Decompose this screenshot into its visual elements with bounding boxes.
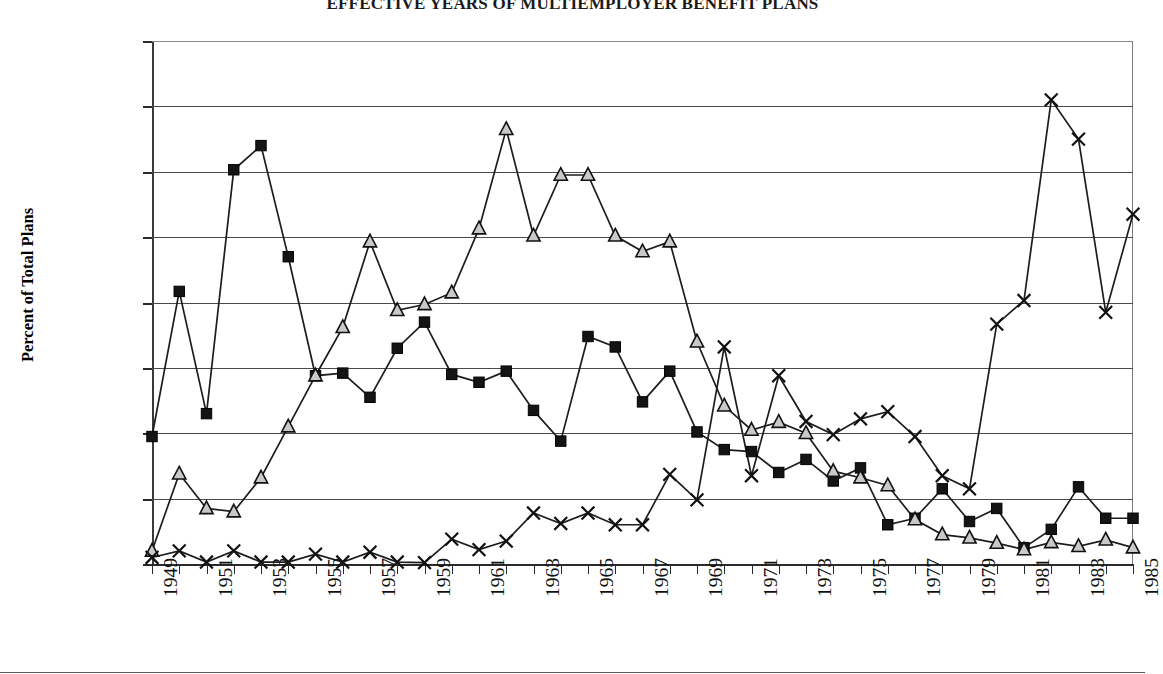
x-tick-mark	[479, 564, 480, 574]
x-tick-mark	[1079, 564, 1080, 574]
x-tick-mark	[261, 564, 262, 574]
x-tick-mark	[207, 564, 208, 574]
series-square-marker	[528, 405, 538, 415]
series-square-marker	[556, 436, 566, 446]
y-tick-mark	[143, 237, 152, 239]
x-tick-mark	[370, 564, 371, 574]
series-triangle-marker	[173, 466, 186, 479]
series-layer	[152, 41, 1133, 564]
series-square-line	[152, 146, 1133, 548]
series-square-marker	[474, 377, 484, 387]
series-square-marker	[392, 343, 402, 353]
series-cross-marker	[772, 369, 785, 382]
x-tick-mark	[643, 564, 644, 574]
series-cross-marker	[173, 545, 186, 558]
series-cross-marker	[227, 545, 240, 558]
x-tick-mark	[588, 564, 589, 574]
series-cross-marker	[554, 517, 567, 530]
series-square-marker	[828, 476, 838, 486]
series-square-marker	[883, 520, 893, 530]
series-cross-marker	[854, 412, 867, 425]
series-cross-marker	[527, 507, 540, 520]
series-cross-marker	[473, 543, 486, 556]
series-triangle-marker	[336, 320, 349, 333]
series-square-marker	[283, 252, 293, 262]
series-cross-marker	[582, 507, 595, 520]
x-tick-mark	[806, 564, 807, 574]
series-square-marker	[256, 140, 266, 150]
series-cross-marker	[827, 428, 840, 441]
x-tick-mark	[425, 564, 426, 574]
series-square-marker	[992, 503, 1002, 513]
y-tick-mark	[143, 368, 152, 370]
y-tick-mark	[143, 499, 152, 501]
series-triangle-marker	[472, 221, 485, 234]
series-square-marker	[338, 368, 348, 378]
series-triangle-marker	[500, 122, 513, 135]
x-tick-mark	[1024, 564, 1025, 574]
series-triangle-marker	[363, 234, 376, 247]
series-cross-marker	[364, 546, 377, 559]
series-triangle-marker	[527, 228, 540, 241]
y-tick-mark	[143, 172, 152, 174]
series-cross-marker	[881, 405, 894, 418]
plot-area: 0.0%1.0%2.0%3.0%4.0%5.0%6.0%7.0%8.0% 194…	[152, 41, 1133, 564]
series-square-marker	[746, 446, 756, 456]
series-square-marker	[1101, 513, 1111, 523]
series-triangle-marker	[254, 470, 267, 483]
series-square-marker	[964, 516, 974, 526]
series-cross-line	[152, 100, 1133, 563]
series-triangle-marker	[282, 419, 295, 432]
x-tick-mark	[752, 564, 753, 574]
chart-title: EFFECTIVE YEARS OF MULTIEMPLOYER BENEFIT…	[0, 0, 1145, 14]
series-cross-marker	[309, 548, 322, 561]
series-square-marker	[147, 431, 157, 441]
series-triangle-marker	[663, 234, 676, 247]
x-tick-mark	[915, 564, 916, 574]
series-square-marker	[719, 444, 729, 454]
series-triangle-marker	[690, 334, 703, 347]
series-square-marker	[1128, 513, 1138, 523]
series-square-marker	[365, 392, 375, 402]
y-axis-title: Percent of Total Plans	[18, 165, 38, 405]
series-square-marker	[637, 397, 647, 407]
series-square-marker	[447, 369, 457, 379]
x-tick-mark	[534, 564, 535, 574]
y-tick-mark	[143, 41, 152, 43]
series-square-marker	[201, 408, 211, 418]
series-triangle-marker	[1099, 532, 1112, 545]
series-square-marker	[419, 317, 429, 327]
series-square-marker	[692, 427, 702, 437]
series-cross-marker	[663, 468, 676, 481]
x-tick-mark	[316, 564, 317, 574]
series-square-marker	[610, 342, 620, 352]
series-triangle-marker	[772, 415, 785, 428]
y-tick-mark	[143, 303, 152, 305]
series-square-marker	[937, 484, 947, 494]
series-cross-marker	[500, 535, 513, 548]
series-square-marker	[583, 331, 593, 341]
series-square-marker	[1046, 524, 1056, 534]
series-square-marker	[801, 454, 811, 464]
series-square-marker	[229, 165, 239, 175]
series-triangle-marker	[936, 527, 949, 540]
series-square-marker	[1073, 482, 1083, 492]
x-tick-label: 1985	[1141, 558, 1163, 597]
x-tick-mark	[697, 564, 698, 574]
x-tick-mark	[152, 564, 153, 574]
series-cross-marker	[445, 533, 458, 546]
x-tick-mark	[1133, 564, 1134, 574]
series-square-marker	[174, 286, 184, 296]
y-tick-mark	[143, 564, 152, 566]
series-triangle-line	[152, 129, 1133, 551]
series-triangle-marker	[1045, 535, 1058, 548]
x-tick-mark	[970, 564, 971, 574]
bottom-divider	[0, 672, 1145, 673]
series-cross-marker	[909, 430, 922, 443]
series-triangle-marker	[581, 168, 594, 181]
series-cross-marker	[936, 469, 949, 482]
series-square-marker	[774, 467, 784, 477]
series-square-marker	[501, 366, 511, 376]
x-tick-mark	[861, 564, 862, 574]
